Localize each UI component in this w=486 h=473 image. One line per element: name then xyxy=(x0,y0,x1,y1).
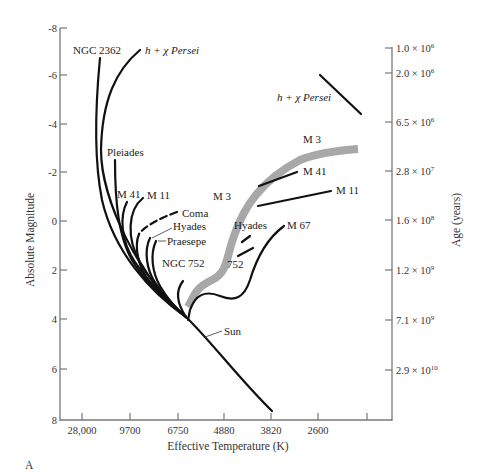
age-tick-label: 2.8 × 107 xyxy=(396,165,435,177)
x-tick-labels: 28,000 9700 6750 4880 3820 2600 xyxy=(68,425,329,436)
label-m11-left: M 11 xyxy=(147,189,170,201)
age-tick-label: 1.2 × 109 xyxy=(396,264,435,276)
age-tick-label: 7.1 × 109 xyxy=(396,314,435,326)
y2-axis-title: Age (years) xyxy=(450,193,463,247)
x-tick-label: 6750 xyxy=(168,425,189,436)
label-coma: Coma xyxy=(182,207,208,219)
label-hyades-right: Hyades xyxy=(234,219,267,231)
label-ngc752-left: NGC 752 xyxy=(162,257,204,269)
x-tick-label: 9700 xyxy=(120,425,141,436)
x-tick-label: 3820 xyxy=(261,425,282,436)
x-axis-title: Effective Temperature (K) xyxy=(167,440,289,453)
label-m41-left: M 41 xyxy=(117,188,141,200)
label-m3-left: M 3 xyxy=(213,190,232,202)
leader-sun xyxy=(205,331,222,337)
label-pleiades: Pleiades xyxy=(107,146,144,158)
x-tick-label: 28,000 xyxy=(68,425,97,436)
label-m67: M 67 xyxy=(287,219,311,231)
label-h-chi-persei-top: h + χ Persei xyxy=(145,44,199,56)
label-sun: Sun xyxy=(224,325,242,337)
isochrones xyxy=(96,50,361,411)
age-tick-label: 2.9 × 1010 xyxy=(396,364,438,376)
age-tick-label: 1.6 × 108 xyxy=(396,214,435,226)
age-tick-label: 2.0 × 106 xyxy=(396,67,435,79)
series-coma xyxy=(139,212,177,234)
label-hyades-left: Hyades xyxy=(173,220,206,232)
y-tick-label: -4 xyxy=(48,119,57,130)
y-axis-title: Absolute Magnitude xyxy=(24,193,37,287)
label-h-chi-persei-right: h + χ Persei xyxy=(277,91,331,103)
x-tick-label: 2600 xyxy=(308,425,329,436)
label-m3-right: M 3 xyxy=(303,133,322,145)
series-ngc752-giant xyxy=(238,248,253,256)
label-praesepe: Praesepe xyxy=(167,235,206,247)
label-m11-right: M 11 xyxy=(336,184,359,196)
x-ticks xyxy=(82,413,367,420)
y-tick-label: 8 xyxy=(52,415,57,426)
age-tick-label: 1.0 × 106 xyxy=(396,42,435,54)
label-m41-right: M 41 xyxy=(303,165,327,177)
label-ngc2362: NGC 2362 xyxy=(73,44,121,56)
series-m3-band xyxy=(188,149,358,307)
x-tick-label: 4880 xyxy=(214,425,235,436)
y-tick-label: 4 xyxy=(52,314,58,325)
age-tick-label: 6.5 × 106 xyxy=(396,116,435,128)
y-tick-label: 2 xyxy=(52,265,57,276)
label-ngc752-right: 752 xyxy=(227,258,244,270)
y-ticks-left xyxy=(60,28,67,369)
y-tick-label: 0 xyxy=(52,216,57,227)
series-m11-giant xyxy=(258,191,331,206)
y-tick-label: -2 xyxy=(48,167,57,178)
series-hyades-giant xyxy=(242,236,250,242)
y-tick-label: -8 xyxy=(48,23,57,34)
panel-label: A xyxy=(25,459,34,471)
y-tick-labels-left: -8 -6 -4 -2 0 2 4 6 8 xyxy=(48,23,58,426)
y-ticks-right xyxy=(385,48,392,370)
y-tick-labels-right: 1.0 × 106 2.0 × 106 6.5 × 106 2.8 × 107 … xyxy=(396,42,438,376)
y-tick-label: 6 xyxy=(52,364,57,375)
hr-diagram: -8 -6 -4 -2 0 2 4 6 8 28,000 9700 6750 4… xyxy=(0,0,486,473)
y-tick-label: -6 xyxy=(48,70,57,81)
